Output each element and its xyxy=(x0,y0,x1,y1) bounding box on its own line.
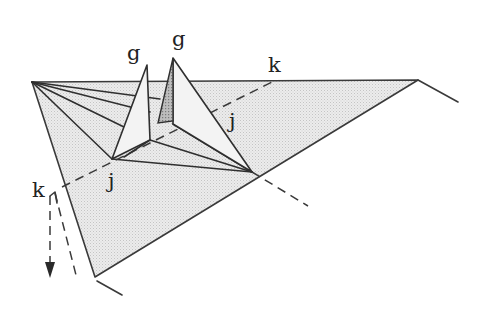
arrow-down-icon xyxy=(45,262,55,278)
label-g-right: g xyxy=(172,27,185,51)
arrow-tail xyxy=(50,192,57,203)
fold-line-extension xyxy=(252,172,308,206)
label-g-left: g xyxy=(127,41,140,65)
label-k-top: k xyxy=(268,53,281,77)
back-layer-edge-right xyxy=(418,80,458,102)
back-layer-edge-bottom xyxy=(97,281,122,295)
label-k-left: k xyxy=(32,178,45,202)
origami-diagram: g g k k j j xyxy=(0,0,492,310)
